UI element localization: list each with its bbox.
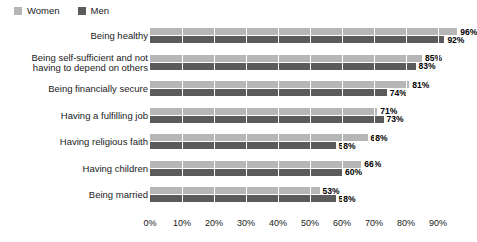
- bar-group: 71%73%: [150, 108, 470, 124]
- bar-value-label: 68%: [368, 133, 388, 143]
- x-tick-label: 70%: [365, 218, 383, 228]
- bar-wrapper: 96%: [150, 28, 470, 35]
- bar-wrapper: 81%: [150, 81, 470, 88]
- bar-row: Being married53%58%: [0, 183, 470, 207]
- bar-men: [150, 36, 444, 43]
- square-swatch-icon: [78, 7, 86, 15]
- bar-value-label: 81%: [409, 80, 429, 90]
- x-axis: 0%10%20%30%40%50%60%70%80%90%: [150, 218, 470, 232]
- bar-value-label: 83%: [416, 61, 436, 71]
- bar-women: [150, 161, 361, 168]
- category-label: Being financially secure: [0, 84, 148, 95]
- bar-women: [150, 28, 457, 35]
- bar-group: 53%58%: [150, 187, 470, 203]
- bar-wrapper: 68%: [150, 134, 470, 141]
- bar-group: 68%58%: [150, 134, 470, 150]
- bar-men: [150, 142, 336, 149]
- chart-legend: Women Men: [14, 6, 109, 16]
- bar-row: Having religious faith68%58%: [0, 130, 470, 154]
- bar-women: [150, 55, 422, 62]
- bar-wrapper: 66%: [150, 161, 470, 168]
- bar-value-label: 92%: [444, 35, 464, 45]
- bar-men: [150, 63, 416, 70]
- bar-value-label: 73%: [384, 114, 404, 124]
- bar-men: [150, 89, 387, 96]
- bar-women: [150, 187, 320, 194]
- bar-row: Having a fulfilling job71%73%: [0, 104, 470, 128]
- x-tick-label: 40%: [269, 218, 287, 228]
- bar-value-label: 58%: [336, 194, 356, 204]
- x-tick-label: 60%: [333, 218, 351, 228]
- bar-row: Being healthy96%92%: [0, 24, 470, 48]
- bar-row: Having children66%60%: [0, 157, 470, 181]
- bar-wrapper: 58%: [150, 142, 470, 149]
- bar-group: 96%92%: [150, 28, 470, 44]
- bar-wrapper: 60%: [150, 169, 470, 176]
- legend-label-women: Women: [27, 6, 60, 16]
- bar-value-label: 58%: [336, 141, 356, 151]
- bar-wrapper: 73%: [150, 116, 470, 123]
- x-tick-label: 20%: [205, 218, 223, 228]
- category-label: Being married: [0, 190, 148, 201]
- category-label: Having religious faith: [0, 137, 148, 148]
- bar-rows: Being healthy96%92%Being self-sufficient…: [0, 24, 470, 210]
- x-tick-label: 0%: [143, 218, 156, 228]
- bar-wrapper: 74%: [150, 89, 470, 96]
- bar-wrapper: 83%: [150, 63, 470, 70]
- category-label: Having a fulfilling job: [0, 110, 148, 121]
- bar-group: 66%60%: [150, 161, 470, 177]
- bar-men: [150, 195, 336, 202]
- bar-wrapper: 71%: [150, 108, 470, 115]
- bar-group: 81%74%: [150, 81, 470, 97]
- x-tick-label: 80%: [397, 218, 415, 228]
- category-label: Being self-sufficient and not having to …: [0, 52, 148, 73]
- x-tick-label: 90%: [429, 218, 447, 228]
- bar-value-label: 60%: [342, 167, 362, 177]
- legend-item-women: Women: [14, 6, 60, 16]
- bar-value-label: 74%: [387, 88, 407, 98]
- plot-area: Being healthy96%92%Being self-sufficient…: [0, 24, 470, 214]
- bar-men: [150, 169, 342, 176]
- bar-wrapper: 58%: [150, 195, 470, 202]
- bar-women: [150, 108, 377, 115]
- x-tick-label: 50%: [301, 218, 319, 228]
- bar-wrapper: 53%: [150, 187, 470, 194]
- x-tick-label: 10%: [173, 218, 191, 228]
- x-tick-label: 30%: [237, 218, 255, 228]
- legend-label-men: Men: [91, 6, 109, 16]
- category-label: Being healthy: [0, 31, 148, 42]
- legend-item-men: Men: [78, 6, 109, 16]
- bar-value-label: 66%: [361, 159, 381, 169]
- bar-wrapper: 92%: [150, 36, 470, 43]
- square-swatch-icon: [14, 7, 22, 15]
- bar-row: Being self-sufficient and not having to …: [0, 51, 470, 75]
- bar-row: Being financially secure81%74%: [0, 77, 470, 101]
- bar-women: [150, 81, 409, 88]
- category-label: Having children: [0, 163, 148, 174]
- bar-group: 85%83%: [150, 55, 470, 71]
- bar-men: [150, 116, 384, 123]
